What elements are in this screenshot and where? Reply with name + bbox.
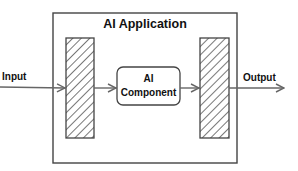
ai-component-label-line1: AI	[144, 73, 154, 84]
output-interface-block	[200, 38, 229, 138]
application-title: AI Application	[103, 17, 187, 31]
input-interface-block	[66, 38, 94, 138]
input-arrow	[0, 87, 65, 88]
output-label: Output	[243, 72, 276, 83]
ai-component-label-line2: Component	[121, 87, 177, 98]
ai-application-diagram: AI Application Input AI Component Output	[0, 0, 298, 171]
input-label: Input	[2, 71, 27, 82]
